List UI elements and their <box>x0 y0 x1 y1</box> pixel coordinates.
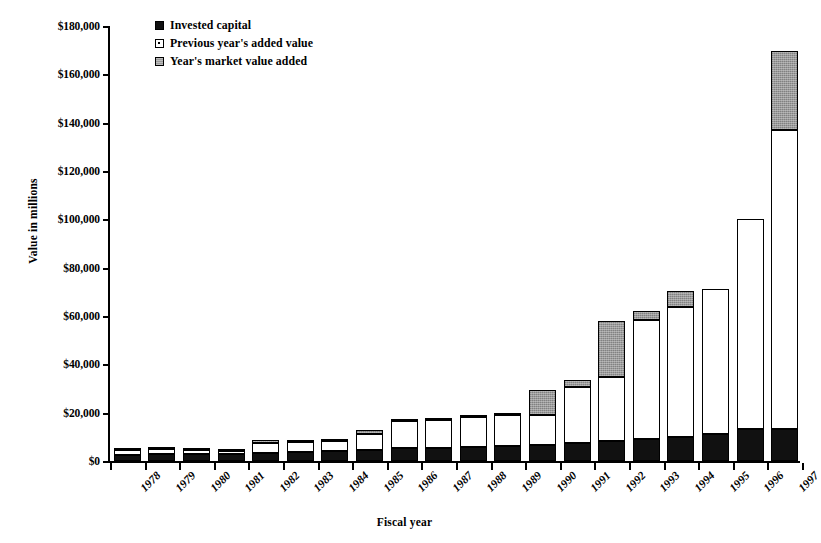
segment-invested-capital <box>460 447 487 461</box>
segment-year-market-value-added <box>425 418 452 420</box>
legend-swatch-mva-icon <box>155 57 164 66</box>
x-axis-tick-label: 1987 <box>450 469 475 494</box>
segment-year-market-value-added <box>667 291 694 306</box>
segment-previous-added-value <box>425 420 452 448</box>
y-axis-tick-label: $180,000 <box>2 20 100 32</box>
x-axis-title: Fiscal year <box>0 516 809 528</box>
plot-area <box>108 26 800 462</box>
bar-1980 <box>183 450 210 461</box>
segment-invested-capital <box>598 441 625 461</box>
x-axis-tick-label: 1983 <box>311 469 336 494</box>
y-axis-tick-label: $100,000 <box>2 213 100 225</box>
segment-invested-capital <box>218 454 245 461</box>
segment-year-market-value-added <box>148 447 175 449</box>
bar-1993 <box>633 311 660 461</box>
segment-previous-added-value <box>183 450 210 454</box>
segment-year-market-value-added <box>287 440 314 442</box>
bar-1986 <box>391 419 418 461</box>
bar-1985 <box>356 430 383 461</box>
y-axis-tick-label: $20,000 <box>2 407 100 419</box>
x-axis-tick-label: 1995 <box>726 469 751 494</box>
legend-swatch-previous-icon <box>155 39 164 48</box>
bar-1991 <box>564 380 591 461</box>
bar-1979 <box>148 449 175 461</box>
x-axis-tick-label: 1993 <box>657 469 682 494</box>
x-axis-tick-label: 1997 <box>796 469 821 494</box>
segment-previous-added-value <box>356 434 383 450</box>
segment-previous-added-value <box>702 289 729 434</box>
segment-previous-added-value <box>148 449 175 454</box>
segment-previous-added-value <box>391 421 418 449</box>
legend-item-invested-capital: Invested capital <box>155 17 395 34</box>
segment-year-market-value-added <box>321 439 348 441</box>
segment-previous-added-value <box>564 387 591 443</box>
bar-1984 <box>321 440 348 461</box>
legend-swatch-invested-icon <box>155 21 164 30</box>
x-axis-tick-label: 1979 <box>173 469 198 494</box>
segment-invested-capital <box>356 450 383 461</box>
legend-item-previous-added-value: Previous year's added value <box>155 35 395 52</box>
segment-previous-added-value <box>737 219 764 429</box>
bar-1992 <box>598 321 625 461</box>
y-axis-tick-label: $80,000 <box>2 262 100 274</box>
x-axis-tick <box>802 463 804 470</box>
bar-1997 <box>771 51 798 461</box>
x-axis-tick-label: 1978 <box>138 469 163 494</box>
segment-year-market-value-added <box>391 419 418 421</box>
x-axis-tick-label: 1981 <box>242 469 267 494</box>
bar-1996 <box>737 219 764 461</box>
segment-year-market-value-added <box>598 321 625 377</box>
segment-previous-added-value <box>494 415 521 446</box>
segment-invested-capital <box>321 451 348 461</box>
segment-year-market-value-added <box>564 380 591 388</box>
segment-invested-capital <box>148 454 175 461</box>
legend-label-invested-capital: Invested capital <box>170 18 251 33</box>
segment-year-market-value-added <box>356 430 383 434</box>
segment-year-market-value-added <box>460 415 487 417</box>
x-axis-tick-label: 1991 <box>588 469 613 494</box>
segment-invested-capital <box>114 455 141 461</box>
segment-previous-added-value <box>460 417 487 447</box>
x-axis-tick-label: 1982 <box>277 469 302 494</box>
x-axis-tick-label: 1984 <box>346 469 371 494</box>
segment-previous-added-value <box>771 130 798 429</box>
segment-invested-capital <box>771 429 798 461</box>
segment-previous-added-value <box>287 442 314 452</box>
segment-invested-capital <box>391 448 418 461</box>
segment-year-market-value-added <box>529 390 556 415</box>
bar-1988 <box>460 416 487 461</box>
chart-legend: Invested capital Previous year's added v… <box>155 17 395 71</box>
segment-previous-added-value <box>321 441 348 451</box>
x-axis-tick-label: 1986 <box>415 469 440 494</box>
bar-group <box>108 26 800 462</box>
segment-invested-capital <box>494 446 521 461</box>
segment-previous-added-value <box>114 450 141 455</box>
bar-1982 <box>252 440 279 461</box>
x-axis-tick-label: 1988 <box>484 469 509 494</box>
bar-1983 <box>287 442 314 461</box>
segment-year-market-value-added <box>771 51 798 130</box>
bar-1994 <box>667 291 694 461</box>
segment-invested-capital <box>252 453 279 461</box>
segment-year-market-value-added <box>252 440 279 442</box>
segment-invested-capital <box>287 452 314 461</box>
x-axis-tick-label: 1985 <box>380 469 405 494</box>
x-axis-tick-label: 1980 <box>207 469 232 494</box>
segment-previous-added-value <box>252 443 279 453</box>
x-axis-tick-label: 1989 <box>519 469 544 494</box>
bar-1978 <box>114 449 141 461</box>
y-axis-tick-label: $0 <box>2 455 100 467</box>
bar-1987 <box>425 419 452 461</box>
bar-1981 <box>218 450 245 461</box>
segment-year-market-value-added <box>633 311 660 319</box>
segment-invested-capital <box>564 443 591 461</box>
segment-previous-added-value <box>667 307 694 437</box>
legend-item-market-value-added: Year's market value added <box>155 53 395 70</box>
y-axis-tick-label: $40,000 <box>2 358 100 370</box>
bar-1989 <box>494 414 521 461</box>
y-axis-tick-label: $120,000 <box>2 165 100 177</box>
x-axis-tick-label: 1992 <box>623 469 648 494</box>
segment-year-market-value-added <box>494 413 521 415</box>
segment-year-market-value-added <box>218 449 245 451</box>
